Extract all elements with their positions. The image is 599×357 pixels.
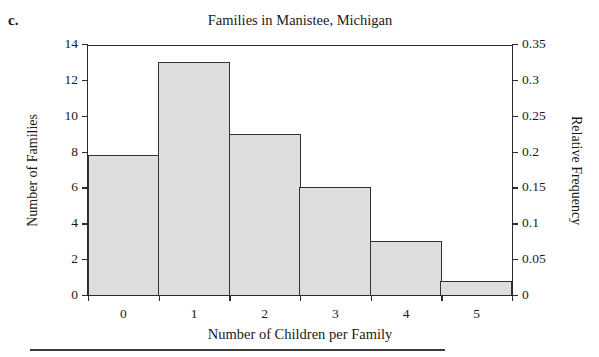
x-axis-tick [512, 295, 513, 301]
y-axis-right-tick [512, 223, 518, 224]
x-axis-tick-label: 0 [120, 307, 127, 321]
y-axis-left-tick [82, 223, 88, 224]
x-axis-tick [88, 295, 89, 301]
bar [229, 134, 301, 295]
bar [370, 241, 442, 295]
y-axis-right-title: Relative Frequency [565, 45, 587, 296]
y-axis-left-tick [82, 152, 88, 153]
y-axis-left-tick-label: 10 [65, 109, 79, 123]
y-axis-left-tick-label: 8 [71, 145, 78, 159]
y-axis-right-tick [512, 259, 518, 260]
plot-area: 02468101214 00.050.10.150.20.250.30.35 0… [87, 45, 513, 296]
y-axis-right-tick-label: 0.1 [522, 217, 539, 231]
x-axis-tick-label: 2 [261, 307, 268, 321]
y-axis-right-tick-label: 0.3 [522, 73, 539, 87]
bottom-divider [30, 349, 445, 351]
y-axis-right-tick-label: 0 [522, 288, 529, 302]
y-axis-left-tick-label: 2 [71, 252, 78, 266]
bar [299, 187, 371, 295]
x-axis-tick [441, 295, 442, 301]
x-axis-tick [371, 295, 372, 301]
y-axis-right-tick [512, 80, 518, 81]
x-axis-tick-label: 5 [473, 307, 480, 321]
y-axis-left-title-text: Number of Families [25, 114, 41, 227]
y-axis-left-tick-label: 0 [71, 288, 78, 302]
y-axis-right-tick [512, 44, 518, 45]
y-axis-right-tick [512, 187, 518, 188]
y-axis-left-tick [82, 116, 88, 117]
y-axis-right-tick-label: 0.05 [522, 252, 546, 266]
y-axis-left-tick-label: 4 [71, 217, 78, 231]
x-axis-tick [229, 295, 230, 301]
y-axis-left-tick [82, 80, 88, 81]
y-axis-right-title-text: Relative Frequency [568, 116, 584, 225]
y-axis-right-tick-label: 0.25 [522, 109, 546, 123]
x-axis-tick-label: 1 [191, 307, 198, 321]
bar [440, 281, 512, 295]
x-axis-title: Number of Children per Family [87, 326, 513, 343]
x-axis-tick-label: 3 [332, 307, 339, 321]
bar [158, 62, 230, 295]
y-axis-left-tick [82, 187, 88, 188]
y-axis-right-tick-label: 0.15 [522, 181, 546, 195]
y-axis-left-title: Number of Families [22, 45, 44, 296]
y-axis-left-tick [82, 44, 88, 45]
y-axis-right-tick-label: 0.2 [522, 145, 539, 159]
y-axis-right-tick-label: 0.35 [522, 37, 546, 51]
y-axis-left-tick-label: 14 [65, 37, 79, 51]
x-axis-tick [159, 295, 160, 301]
y-axis-right-tick [512, 152, 518, 153]
x-axis-tick [300, 295, 301, 301]
figure-label: c. [8, 12, 19, 29]
bar-series [88, 46, 512, 295]
chart-title: Families in Manistee, Michigan [87, 12, 513, 29]
y-axis-left-tick-label: 6 [71, 181, 78, 195]
bar [88, 155, 160, 295]
y-axis-right-tick [512, 116, 518, 117]
x-axis-tick-label: 4 [403, 307, 410, 321]
y-axis-left-tick [82, 259, 88, 260]
y-axis-left-tick-label: 12 [65, 73, 79, 87]
